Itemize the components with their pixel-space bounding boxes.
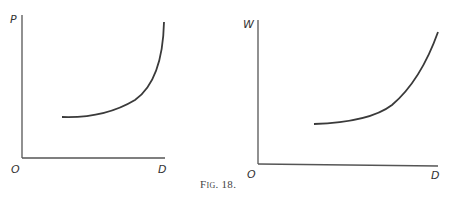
left-origin-label: O — [11, 164, 20, 175]
left-x-axis-label: D — [158, 164, 166, 175]
left-y-axis-label: P — [10, 14, 17, 25]
right-origin-label: O — [247, 169, 256, 180]
figure-18 — [0, 0, 451, 206]
right-x-axis — [258, 164, 438, 166]
right-x-axis-label: D — [431, 170, 439, 181]
figure-caption: Fig. 18. — [200, 178, 236, 190]
right-curve — [314, 32, 438, 124]
left-diagram — [22, 15, 165, 158]
right-diagram — [258, 20, 438, 166]
left-curve — [62, 22, 164, 117]
right-y-axis-label: W — [243, 19, 254, 30]
